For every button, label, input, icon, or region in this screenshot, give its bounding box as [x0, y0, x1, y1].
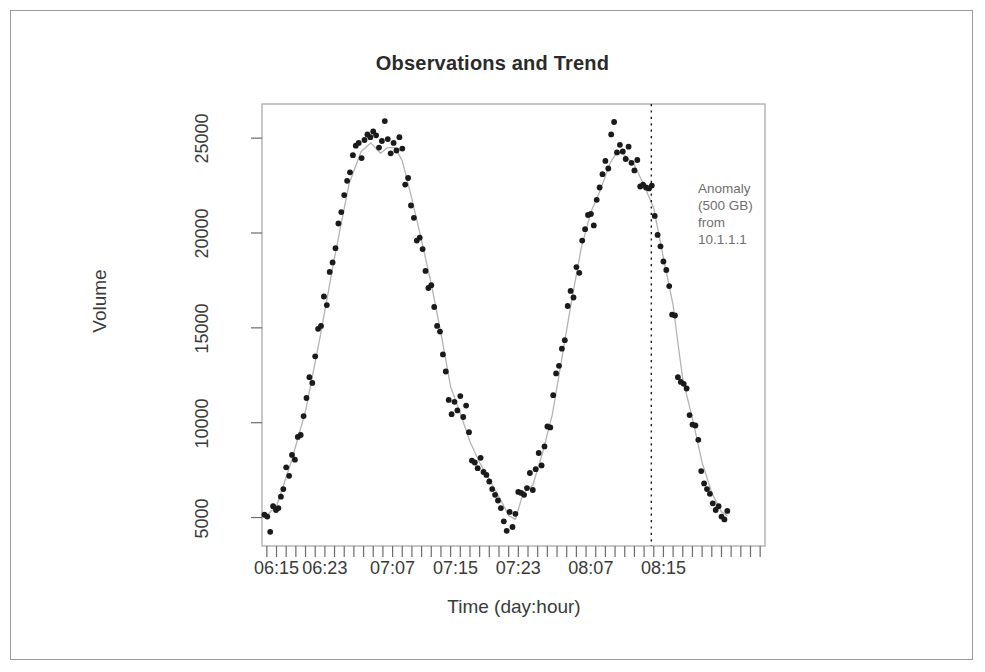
observation-point — [565, 303, 571, 309]
observation-point — [399, 146, 405, 152]
observation-point — [312, 353, 318, 359]
observation-point — [527, 470, 533, 476]
observation-point — [301, 413, 307, 419]
observation-point — [344, 178, 350, 184]
observation-point — [405, 175, 411, 181]
axis-tick-marks — [251, 138, 760, 557]
observation-point — [547, 425, 553, 431]
observation-point — [267, 529, 273, 535]
observation-point — [286, 473, 292, 479]
observation-point — [655, 232, 661, 238]
observation-point — [701, 481, 707, 487]
observation-point — [388, 150, 394, 156]
observation-point — [553, 371, 559, 377]
observation-point — [333, 245, 339, 251]
observation-point — [289, 452, 295, 458]
anomaly-annotation-line-2: (500 GB) — [698, 197, 778, 214]
observation-point — [394, 148, 400, 154]
observation-point — [428, 282, 434, 288]
observation-point — [722, 517, 728, 523]
observation-point — [695, 437, 701, 443]
observation-point — [347, 169, 353, 175]
observation-point — [373, 132, 379, 138]
observation-point — [513, 511, 519, 517]
observation-point — [417, 235, 423, 241]
observation-point — [486, 479, 492, 485]
observation-point — [460, 414, 466, 420]
observation-point — [605, 166, 611, 172]
observation-point — [463, 403, 469, 409]
observation-point — [556, 363, 562, 369]
observation-point — [588, 211, 594, 217]
observation-point — [658, 243, 664, 249]
plot-axis-box — [262, 104, 765, 546]
observation-point — [684, 386, 690, 392]
observation-point — [724, 508, 730, 514]
observation-point — [530, 487, 536, 493]
observation-point — [626, 144, 632, 150]
observation-point — [614, 150, 620, 156]
observation-point — [693, 423, 699, 429]
chart-plot-root: Observations and Trend Volume Time (day:… — [0, 0, 985, 672]
observation-point — [542, 444, 548, 450]
observation-point — [283, 464, 289, 470]
observation-point — [478, 455, 484, 461]
observation-point — [397, 134, 403, 140]
observation-point — [402, 182, 408, 188]
anomaly-annotation-line-4: 10.1.1.1 — [698, 231, 778, 248]
observation-point — [385, 136, 391, 142]
observation-point — [437, 329, 443, 335]
observation-point — [278, 494, 284, 500]
observation-point — [504, 528, 510, 534]
observation-point — [507, 509, 513, 515]
observation-point — [536, 450, 542, 456]
observation-point — [571, 295, 577, 301]
observation-point — [687, 412, 693, 418]
observation-point — [698, 468, 704, 474]
observation-point — [411, 215, 417, 221]
observation-point — [304, 395, 310, 401]
observation-point — [498, 505, 504, 511]
observation-point — [336, 221, 342, 227]
observation-point — [710, 500, 716, 506]
observation-point — [408, 203, 414, 209]
observation-point — [597, 185, 603, 191]
anomaly-annotation-line-1: Anomaly — [698, 180, 778, 197]
observation-point — [623, 156, 629, 162]
observation-point — [510, 524, 516, 530]
observation-point — [382, 118, 388, 124]
observation-point — [338, 209, 344, 215]
observation-point — [362, 137, 368, 143]
plot-border — [262, 104, 765, 546]
observation-point — [356, 140, 362, 146]
observation-point — [449, 411, 455, 417]
observation-point — [620, 149, 626, 155]
observation-point — [420, 246, 426, 252]
observation-point — [309, 380, 315, 386]
observation-point — [582, 226, 588, 232]
observation-point — [321, 294, 327, 300]
observation-point — [611, 119, 617, 125]
observation-point — [280, 486, 286, 492]
observation-point — [634, 157, 640, 163]
observation-point — [521, 492, 527, 498]
trend-line-path — [264, 143, 727, 520]
observation-point — [307, 374, 313, 380]
observation-point — [376, 145, 382, 151]
observation-point — [391, 140, 397, 146]
observation-point — [440, 352, 446, 358]
observation-point — [576, 270, 582, 276]
observation-point — [367, 134, 373, 140]
observation-point — [539, 463, 545, 469]
observation-point — [608, 132, 614, 138]
observation-point — [423, 268, 429, 274]
observation-point — [466, 429, 472, 435]
observation-point — [672, 313, 678, 319]
observation-point — [446, 397, 452, 403]
observation-point — [264, 514, 270, 520]
chart-canvas — [0, 0, 985, 672]
observation-point — [579, 238, 585, 244]
observation-point — [559, 346, 565, 352]
observation-point — [591, 223, 597, 229]
observation-point — [276, 505, 282, 511]
